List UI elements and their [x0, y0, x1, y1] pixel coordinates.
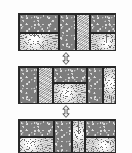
- cell-b3: [53, 67, 87, 83]
- panel-top: [18, 13, 116, 51]
- cell-b6: [103, 67, 116, 104]
- cell-b2: [38, 67, 53, 104]
- cell-c3: [54, 120, 72, 153]
- cell-a5: [90, 14, 116, 33]
- cell-c5: [85, 120, 116, 137]
- panel-middle: [18, 66, 116, 104]
- cell-b1: [19, 67, 38, 104]
- cell-c6: [85, 137, 116, 153]
- double-headed-vertical-arrow-icon: [61, 52, 71, 65]
- cell-c4: [72, 120, 85, 153]
- cell-c1: [19, 120, 54, 137]
- cell-a6: [90, 33, 116, 51]
- cell-c2: [19, 137, 54, 153]
- diagram-canvas: [0, 0, 132, 153]
- cell-a3: [59, 14, 76, 51]
- cell-a4: [76, 14, 90, 51]
- panel-bottom: [18, 119, 116, 153]
- cell-a1: [19, 14, 59, 33]
- cell-a2: [19, 33, 59, 51]
- cell-b5: [87, 67, 103, 104]
- cell-b4: [53, 83, 87, 104]
- double-headed-vertical-arrow-icon: [61, 105, 71, 118]
